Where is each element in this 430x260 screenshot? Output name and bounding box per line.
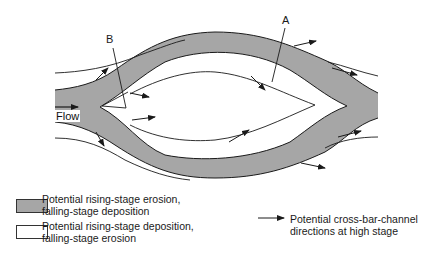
label-a: A bbox=[282, 14, 289, 27]
legend-gray-line1: Potential rising-stage erosion, bbox=[42, 193, 180, 205]
legend-arrow-line2: directions at high stage bbox=[290, 225, 398, 237]
legend-white-line1: Potential rising-stage deposition, bbox=[42, 220, 194, 232]
legend-arrow-line1: Potential cross-bar-channel bbox=[290, 213, 418, 225]
flow-label: Flow bbox=[55, 110, 80, 122]
label-b: B bbox=[106, 33, 113, 46]
legend-white-line2: falling-stage erosion bbox=[42, 232, 136, 244]
legend-gray-line2: falling-stage deposition bbox=[42, 205, 149, 217]
